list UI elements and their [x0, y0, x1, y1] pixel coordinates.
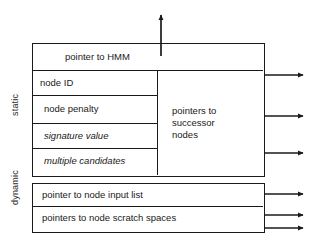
diagram-canvas: static dynamic pointer to HMM node ID no…: [0, 0, 313, 250]
field-node-scratch-spaces-label: pointers to node scratch spaces: [42, 213, 176, 224]
field-node-penalty: node penalty: [33, 96, 158, 124]
static-section-box: pointer to HMM node ID node penalty sign…: [32, 43, 265, 177]
field-multiple-candidates-label: multiple candidates: [44, 156, 125, 167]
field-node-scratch-spaces: pointers to node scratch spaces: [33, 207, 263, 231]
section-label-dynamic: dynamic: [4, 189, 26, 229]
section-label-static-text: static: [10, 94, 20, 116]
field-pointer-to-hmm: pointer to HMM: [33, 44, 263, 71]
field-node-penalty-label: node penalty: [44, 104, 98, 115]
successor-line-3: nodes: [172, 129, 216, 141]
field-multiple-candidates: multiple candidates: [33, 149, 158, 175]
field-successor-pointers: pointers to successor nodes: [158, 71, 263, 175]
field-signature-value: signature value: [33, 124, 158, 149]
dynamic-section-box: pointer to node input list pointers to n…: [32, 183, 265, 233]
section-label-dynamic-text: dynamic: [10, 183, 20, 205]
field-successor-pointers-text: pointers to successor nodes: [172, 105, 216, 141]
successor-line-2: successor: [172, 117, 216, 129]
field-node-input-list-label: pointer to node input list: [42, 190, 143, 201]
field-node-input-list: pointer to node input list: [33, 184, 263, 207]
field-node-id: node ID: [33, 71, 158, 96]
field-signature-value-label: signature value: [44, 131, 108, 142]
field-pointer-to-hmm-label: pointer to HMM: [65, 52, 130, 63]
section-label-static: static: [4, 100, 26, 134]
field-node-id-label: node ID: [40, 78, 73, 89]
successor-line-1: pointers to: [172, 105, 216, 117]
